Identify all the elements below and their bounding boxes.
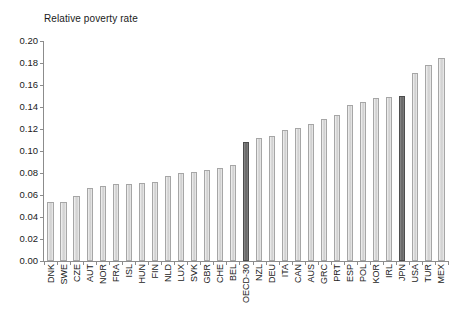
x-axis-tick-label: IRL	[383, 262, 396, 322]
y-axis-tick-label: 0.10	[0, 145, 38, 156]
x-axis-tick-label-text: FRA	[111, 264, 120, 282]
bar-slot	[226, 41, 239, 261]
bar	[217, 168, 223, 262]
x-axis-tick-label-text: NZL	[255, 264, 264, 281]
x-axis-tick-label-text: JPN	[398, 264, 407, 281]
x-axis-tick-label: BEL	[226, 262, 239, 322]
bar-slot	[396, 41, 409, 261]
x-axis-tick-label-text: CAN	[294, 264, 303, 283]
bar-slot	[253, 41, 266, 261]
bar-slot	[187, 41, 200, 261]
bar	[191, 172, 197, 261]
bar	[152, 182, 158, 261]
x-axis-tick-label: OECD-30	[239, 262, 252, 322]
x-axis-tick-label-text: ITA	[281, 264, 290, 277]
x-axis-tick-label-text: NOR	[98, 264, 107, 284]
bar	[139, 183, 145, 261]
x-axis-tick-label-text: ISL	[124, 264, 133, 278]
x-axis-tick-label: HUN	[135, 262, 148, 322]
bar	[165, 176, 171, 261]
x-axis-tick-label-text: AUT	[85, 264, 94, 282]
bar-slot	[435, 41, 448, 261]
x-axis-tick-label: ISL	[122, 262, 135, 322]
bar-slot	[96, 41, 109, 261]
relative-poverty-rate-chart: Relative poverty rate 0.200.180.160.140.…	[0, 0, 453, 324]
bar-slot	[135, 41, 148, 261]
bar-slot	[305, 41, 318, 261]
x-axis-tick-label-text: NLD	[163, 264, 172, 282]
bar	[126, 184, 132, 261]
bar-slot	[122, 41, 135, 261]
y-axis-tick-label: 0.18	[0, 57, 38, 68]
bar	[60, 202, 66, 261]
y-axis-tick-label: 0.06	[0, 189, 38, 200]
bar-slot	[83, 41, 96, 261]
x-axis-tick-label-text: HUN	[137, 264, 146, 284]
bar-slot	[161, 41, 174, 261]
bar	[204, 170, 210, 261]
bar-slot	[422, 41, 435, 261]
x-axis-tick-label: PRT	[331, 262, 344, 322]
x-axis-tick-label: SVK	[187, 262, 200, 322]
x-axis-tick-label-text: FIN	[150, 264, 159, 279]
x-axis-tick-label: CAN	[292, 262, 305, 322]
x-axis-tick-mark	[448, 261, 449, 265]
bar	[100, 186, 106, 261]
x-axis-tick-label: FRA	[109, 262, 122, 322]
bar	[438, 58, 444, 262]
x-axis-tick-label-text: ESP	[346, 264, 355, 282]
x-axis-tick-label: JPN	[396, 262, 409, 322]
bar-slot	[44, 41, 57, 261]
bar-slot	[213, 41, 226, 261]
x-axis-tick-label-text: AUS	[307, 264, 316, 283]
bar-slot	[357, 41, 370, 261]
bar-slot	[70, 41, 83, 261]
y-axis-tick-label: 0.14	[0, 101, 38, 112]
x-axis-tick-label-text: OECD-30	[241, 264, 250, 303]
x-axis-tick-label: ESP	[344, 262, 357, 322]
y-axis-tick-label: 0.16	[0, 79, 38, 90]
x-axis-tick-label: DNK	[44, 262, 57, 322]
bar	[230, 165, 236, 261]
x-axis-tick-label-text: TUR	[424, 264, 433, 283]
bar-slot	[174, 41, 187, 261]
x-axis-tick-label: TUR	[422, 262, 435, 322]
x-axis-tick-label-text: GRC	[320, 264, 329, 284]
bar-slot	[148, 41, 161, 261]
y-axis-tick-label: 0.02	[0, 233, 38, 244]
x-axis-tick-label-text: CZE	[72, 264, 81, 282]
x-axis-tick-label-text: SWE	[59, 264, 68, 285]
x-axis-tick-label: DEU	[266, 262, 279, 322]
bar-highlighted	[399, 96, 405, 261]
x-axis-tick-label-text: IRL	[385, 264, 394, 278]
x-axis-tick-label-text: SVK	[189, 264, 198, 282]
bar	[256, 138, 262, 261]
x-axis-tick-label-text: KOR	[372, 264, 381, 284]
x-axis-tick-label-text: CHE	[215, 264, 224, 283]
bar-slot	[200, 41, 213, 261]
chart-axis-title: Relative poverty rate	[44, 13, 138, 24]
x-axis-tick-label: NLD	[161, 262, 174, 322]
bar-slot	[409, 41, 422, 261]
bar-slot	[383, 41, 396, 261]
x-axis-tick-label-text: BEL	[228, 264, 237, 281]
bar-slot	[331, 41, 344, 261]
bar	[412, 73, 418, 261]
bar	[269, 136, 275, 261]
bar-series	[44, 41, 448, 261]
y-axis-tick-label: 0.04	[0, 211, 38, 222]
y-axis-tick-label: 0.20	[0, 35, 38, 46]
bar	[178, 173, 184, 261]
x-axis-tick-label-text: USA	[411, 264, 420, 283]
bar	[425, 65, 431, 261]
bar-slot	[109, 41, 122, 261]
x-axis-label-group: DNKSWECZEAUTNORFRAISLHUNFINNLDLUXSVKGBRC…	[44, 262, 448, 324]
bar	[73, 196, 79, 261]
bar-slot	[344, 41, 357, 261]
x-axis-tick-label: GBR	[200, 262, 213, 322]
bar-slot	[370, 41, 383, 261]
bar	[386, 97, 392, 261]
y-axis-tick-label: 0.00	[0, 255, 38, 266]
bar-slot	[279, 41, 292, 261]
bar	[334, 115, 340, 261]
